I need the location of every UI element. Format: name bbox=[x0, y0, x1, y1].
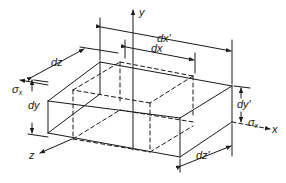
left-stress-label: σx bbox=[12, 84, 22, 96]
strain-element-diagram: y x z σx σx dz dy dx dx' dy' dz' bbox=[0, 0, 286, 183]
y-axis-label: y bbox=[139, 7, 145, 18]
z-axis bbox=[40, 139, 72, 153]
dy-label: dy bbox=[28, 100, 40, 111]
dz-prime-dimension bbox=[180, 124, 232, 172]
diagram-canvas bbox=[0, 0, 286, 183]
dz-label: dz bbox=[51, 57, 63, 68]
dz-prime-label: dz' bbox=[196, 150, 210, 161]
right-stress-label: σx bbox=[248, 117, 258, 129]
dz-dimension bbox=[32, 47, 118, 82]
left-stress-arrow bbox=[20, 80, 48, 85]
x-axis-label: x bbox=[272, 124, 278, 135]
dy-prime-label: dy' bbox=[237, 99, 251, 110]
deformed-element bbox=[48, 62, 232, 157]
dx-label: dx bbox=[151, 43, 163, 54]
dx-prime-label: dx' bbox=[157, 33, 171, 44]
z-axis-label: z bbox=[29, 150, 35, 161]
